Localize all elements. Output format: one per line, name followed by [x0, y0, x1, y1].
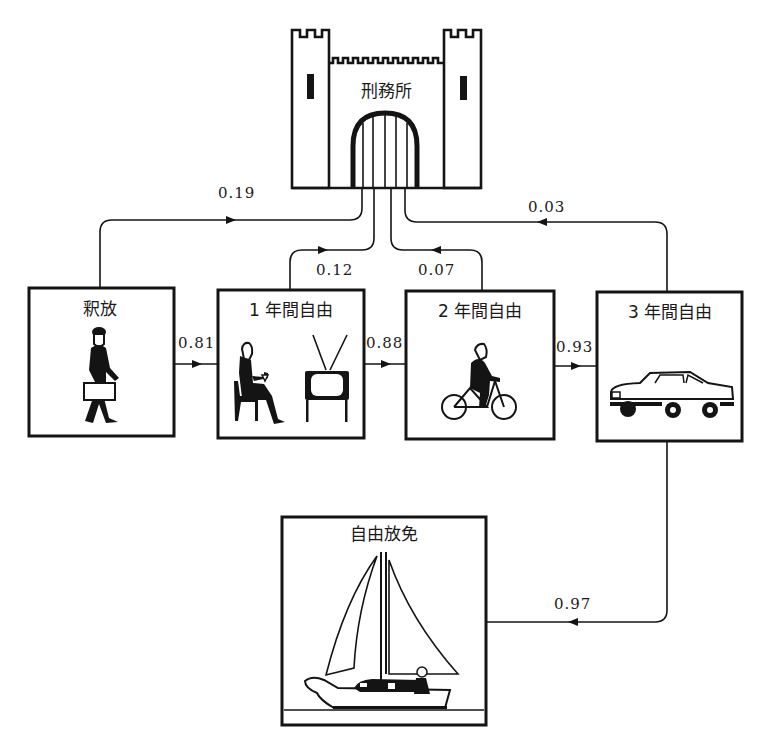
castle-prison-icon [292, 30, 481, 188]
arrow-right-icon [192, 360, 202, 368]
arrow-right-icon [318, 246, 328, 254]
free-2yr-node: 2 年間自由 [406, 291, 554, 439]
prison-label: 刑務所 [361, 81, 412, 101]
edge-released-to-free1yr: 0.81 [174, 334, 218, 368]
free-3yr-label: 3 年間自由 [628, 302, 712, 322]
edge-free3yr-to-discharged: 0.97 [486, 441, 667, 626]
discharged-label: 自由放免 [350, 524, 418, 544]
arrow-left-icon [568, 618, 578, 626]
free-1yr-label: 1 年間自由 [249, 300, 333, 320]
edge-free2yr-to-free3yr: 0.93 [554, 338, 597, 370]
edge-label-0-93: 0.93 [556, 338, 593, 356]
edge-label-0-88: 0.88 [366, 334, 403, 352]
arrow-right-icon [571, 362, 581, 370]
edge-label-0-12: 0.12 [316, 261, 353, 279]
arrow-left-icon [537, 218, 547, 226]
edge-label-0-97: 0.97 [554, 595, 591, 613]
released-node: 釈放 [29, 288, 174, 436]
prison-transition-diagram: 刑務所 0.19 0.12 0.07 0.03 0.81 0.88 [0, 0, 770, 751]
released-label: 釈放 [83, 299, 117, 319]
edge-label-0-81: 0.81 [178, 334, 215, 352]
free-3yr-node: 3 年間自由 [597, 292, 742, 441]
free-2yr-label: 2 年間自由 [438, 301, 522, 321]
arrow-right-icon [381, 360, 391, 368]
arrow-right-icon [226, 216, 236, 224]
edge-label-0-19: 0.19 [218, 184, 255, 202]
discharged-node: 自由放免 [282, 517, 486, 725]
edge-free1yr-to-free2yr: 0.88 [364, 334, 406, 368]
arrow-left-icon [431, 246, 441, 254]
free-1yr-node: 1 年間自由 [218, 290, 364, 438]
edge-label-0-03: 0.03 [528, 198, 565, 216]
prison-node: 刑務所 [292, 30, 481, 188]
edge-label-0-07: 0.07 [418, 261, 455, 279]
